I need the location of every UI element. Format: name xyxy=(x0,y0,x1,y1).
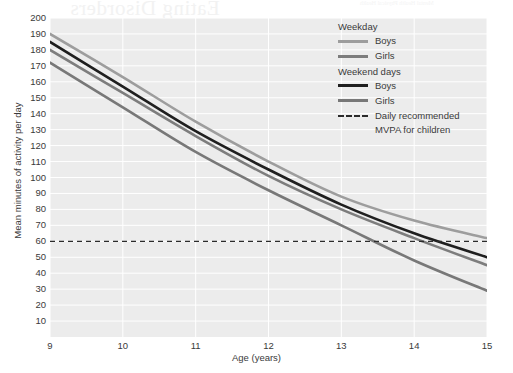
y-tick-label: 200 xyxy=(2,13,46,23)
y-tick-label: 140 xyxy=(2,109,46,119)
y-tick-label: 50 xyxy=(2,252,46,262)
y-tick-label: 150 xyxy=(2,93,46,103)
legend-item-weekday-boys: Boys xyxy=(338,36,459,47)
y-tick-label: 30 xyxy=(2,284,46,294)
y-tick-label: 60 xyxy=(2,236,46,246)
y-tick-label: 90 xyxy=(2,188,46,198)
legend-swatch-reference-line xyxy=(338,115,368,117)
y-tick-label: 100 xyxy=(2,173,46,183)
y-tick-label: 40 xyxy=(2,268,46,278)
legend-label-weekend-boys: Boys xyxy=(375,81,396,91)
y-tick-label: 70 xyxy=(2,220,46,230)
y-tick-label: 190 xyxy=(2,29,46,39)
legend-label-reference-line-2: MVPA for children xyxy=(338,125,459,135)
x-tick-label: 15 xyxy=(472,340,502,351)
y-tick-label: 160 xyxy=(2,77,46,87)
y-tick-label: 10 xyxy=(2,316,46,326)
x-tick-label: 11 xyxy=(181,340,211,351)
legend-swatch-weekday-boys xyxy=(338,40,368,43)
legend-item-weekend-girls: Girls xyxy=(338,95,459,106)
chart-figure: Eating Disorders Mental Health Physical … xyxy=(0,0,513,373)
bleed-through-header: Mental Health Physical Health xyxy=(360,0,434,6)
y-tick-label: 110 xyxy=(2,157,46,167)
y-tick-label: 120 xyxy=(2,141,46,151)
legend-label-weekend-girls: Girls xyxy=(375,96,395,106)
legend-item-weekend-boys: Boys xyxy=(338,80,459,91)
legend-label-weekday-boys: Boys xyxy=(375,36,396,46)
legend-label-weekday-girls: Girls xyxy=(375,51,395,61)
y-tick-label: 20 xyxy=(2,300,46,310)
legend-swatch-weekend-girls xyxy=(338,99,368,102)
legend-label-reference-line-1: Daily recommended xyxy=(375,111,459,121)
legend-heading-weekday: Weekday xyxy=(338,22,459,32)
legend-heading-weekend: Weekend days xyxy=(338,67,459,77)
y-tick-label: 130 xyxy=(2,125,46,135)
y-tick-label: 180 xyxy=(2,45,46,55)
x-tick-label: 10 xyxy=(108,340,138,351)
y-tick-label: 80 xyxy=(2,204,46,214)
y-tick-label: 170 xyxy=(2,61,46,71)
legend-item-weekday-girls: Girls xyxy=(338,51,459,62)
legend-swatch-weekend-boys xyxy=(338,84,368,87)
legend-item-reference-line: Daily recommended xyxy=(338,110,459,121)
chart-legend: Weekday Boys Girls Weekend days Boys Gir… xyxy=(338,22,459,135)
x-tick-label: 12 xyxy=(254,340,284,351)
x-tick-label: 14 xyxy=(399,340,429,351)
x-tick-label: 13 xyxy=(326,340,356,351)
x-axis-title: Age (years) xyxy=(0,352,513,363)
x-tick-label: 9 xyxy=(35,340,65,351)
y-axis-ticks: 2001901801701601501401301201101009080706… xyxy=(0,0,46,373)
legend-swatch-weekday-girls xyxy=(338,55,368,58)
